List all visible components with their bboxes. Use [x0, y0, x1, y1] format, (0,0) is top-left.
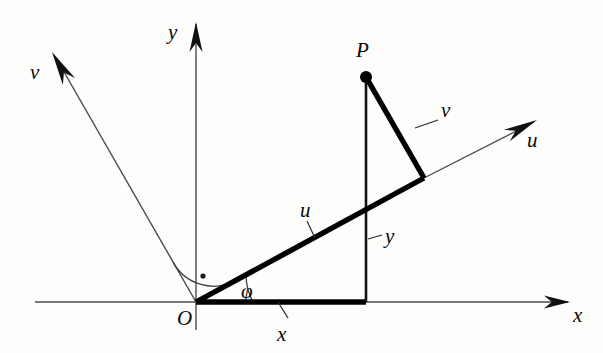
y-axis-label: y: [168, 22, 177, 43]
point-p-marker: [360, 71, 372, 83]
y-segment-leader: [368, 235, 382, 239]
origin-label: O: [177, 308, 192, 329]
v-axis-label: v: [30, 62, 39, 83]
v-segment-leader: [415, 120, 438, 128]
u-axis-label: u: [527, 130, 538, 151]
x-segment-label: x: [277, 324, 286, 345]
u-segment-label: u: [300, 200, 311, 221]
geometry-canvas: [0, 0, 603, 353]
right-angle-dot: [200, 273, 205, 278]
v-segment-label: v: [441, 100, 450, 121]
x-axis-label: x: [573, 305, 582, 326]
u-segment-leader: [307, 221, 315, 238]
point-p-label: P: [356, 40, 369, 61]
phi-angle-label: φ: [241, 281, 253, 302]
y-segment-label: y: [385, 226, 394, 247]
v-axis-arrowhead: [52, 52, 75, 85]
coordinate-diagram: y x u v O P φ u v x y: [0, 0, 603, 353]
